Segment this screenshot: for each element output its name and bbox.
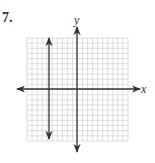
coordinate-plane: y x xyxy=(0,0,155,163)
y-axis-label: y xyxy=(73,13,80,27)
x-axis-label: x xyxy=(140,82,147,96)
